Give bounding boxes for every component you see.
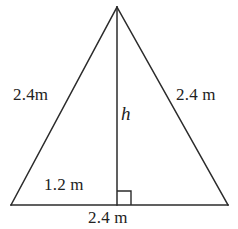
triangle-figure (0, 0, 238, 229)
right-angle-marker-icon (117, 191, 131, 205)
label-left-side: 2.4m (13, 86, 48, 103)
label-right-side: 2.4 m (176, 86, 216, 103)
geometry-diagram: 2.4m 2.4 m h 1.2 m 2.4 m (0, 0, 238, 229)
triangle-right-side (117, 7, 228, 205)
label-base: 2.4 m (88, 209, 128, 226)
label-height: h (121, 104, 131, 123)
label-half-base: 1.2 m (44, 176, 84, 193)
